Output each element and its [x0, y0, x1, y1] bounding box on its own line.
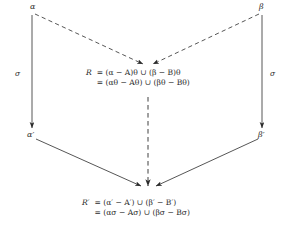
diagram-edges: [0, 0, 294, 228]
node-alpha: α: [30, 3, 35, 11]
equation-R-line-1: = (α − A)θ ∪ (β − B)θ: [97, 68, 190, 78]
edge-label-left-sigma: σ: [15, 70, 20, 78]
equation-block-R-prime: R′ = (α′ − A′) ∪ (β′ − B′) = (ασ − Aσ) ∪…: [82, 198, 190, 217]
equation-R-prime-line-1: = (α′ − A′) ∪ (β′ − B′): [94, 198, 190, 208]
node-alpha-prime: α′: [27, 131, 34, 139]
edge-beta-prime-to-R-prime: [156, 139, 258, 186]
equation-R-prime-lhs-spacer: [82, 208, 94, 218]
commutative-diagram: α β α′ β′ σ σ R = (α − A)θ ∪ (β − B)θ = …: [0, 0, 294, 228]
equation-R-prime-lhs: R′: [82, 198, 94, 208]
edge-alpha-prime-to-R-prime: [36, 139, 141, 186]
equation-R-prime-line-2: = (ασ − Aσ) ∪ (βσ − Bσ): [94, 208, 190, 218]
edge-alpha-to-R: [35, 14, 143, 64]
node-beta: β: [259, 3, 264, 11]
edge-label-right-sigma: σ: [270, 70, 275, 78]
node-beta-prime: β′: [258, 131, 264, 139]
equation-R-line-2: = (αθ − Aθ) ∪ (βθ − Bθ): [97, 78, 190, 88]
equation-block-R: R = (α − A)θ ∪ (β − B)θ = (αθ − Aθ) ∪ (β…: [86, 68, 190, 87]
equation-R-lhs: R: [86, 68, 97, 78]
edge-beta-to-R: [153, 14, 259, 64]
equation-R-lhs-spacer: [86, 78, 97, 88]
